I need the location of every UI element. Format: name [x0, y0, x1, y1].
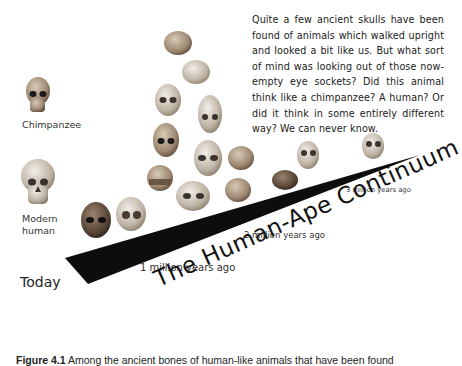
fossil-skull-icon	[272, 170, 298, 190]
caption-label: Figure 4.1	[16, 354, 66, 366]
fossil-skull-icon	[176, 181, 210, 211]
caption-text: Among the ancient bones of human-like an…	[68, 354, 394, 366]
fossil-skull-icon	[225, 178, 251, 202]
fossil-skull-icon	[153, 123, 179, 157]
label-modern-line2: human	[22, 225, 58, 237]
fossil-skull-icon	[362, 133, 384, 159]
label-today: Today	[20, 274, 61, 290]
fossil-skull-icon	[116, 197, 146, 231]
fossil-skull-icon	[194, 140, 222, 176]
label-chimpanzee: Chimpanzee	[22, 119, 81, 130]
fossil-skull-icon	[228, 146, 254, 170]
modern-human-skull-icon	[21, 159, 55, 204]
fossil-skull-icon	[147, 165, 173, 191]
chimpanzee-skull-icon	[26, 77, 50, 112]
fossil-skull-icon	[81, 202, 111, 238]
quote-text: Quite a few ancient skulls have been fou…	[252, 12, 444, 137]
fossil-skull-icon	[155, 84, 181, 116]
fossil-skull-icon	[182, 60, 210, 84]
label-modern-line1: Modern	[22, 213, 58, 225]
label-modern-human: Modern human	[22, 213, 58, 237]
fossil-skull-icon	[164, 31, 192, 55]
figure-caption: Figure 4.1 Among the ancient bones of hu…	[16, 354, 456, 366]
fossil-skull-icon	[198, 95, 222, 133]
fossil-skull-icon	[297, 141, 319, 169]
